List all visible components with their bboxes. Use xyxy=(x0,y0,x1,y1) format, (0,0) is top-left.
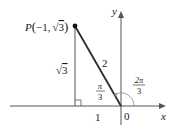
y-axis-label: y xyxy=(111,5,117,17)
x-axis-label: x xyxy=(160,110,166,122)
y-axis-arrow-icon xyxy=(118,11,124,18)
horizontal-side-label: 1 xyxy=(95,111,101,123)
svg-text:P(−1,√3): P(−1,√3) xyxy=(24,19,68,34)
polar-triangle-diagram: P(−1,√3) √3 2 1 π 3 2π 3 x y 0 xyxy=(0,0,179,134)
right-angle-marker xyxy=(75,100,81,106)
point-x: −1, xyxy=(36,21,51,33)
hypotenuse-label: 2 xyxy=(102,57,108,69)
standard-angle-numerator: 2π xyxy=(135,75,144,85)
origin-label: 0 xyxy=(124,110,130,122)
vertical-side-label: 3 xyxy=(62,64,68,76)
reference-angle-denominator: 3 xyxy=(98,92,102,102)
svg-text:√3: √3 xyxy=(56,64,68,76)
point-close-paren: ) xyxy=(64,19,68,34)
standard-angle-denominator: 3 xyxy=(137,86,141,96)
reference-angle-numerator: π xyxy=(98,81,103,91)
x-axis-arrow-icon xyxy=(159,103,166,109)
point-p xyxy=(73,24,78,29)
